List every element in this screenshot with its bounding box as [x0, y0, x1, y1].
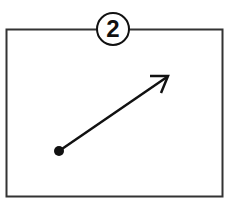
- start-point-dot: [54, 146, 64, 156]
- step-number-label: 2: [97, 13, 129, 45]
- vector-line: [59, 77, 167, 151]
